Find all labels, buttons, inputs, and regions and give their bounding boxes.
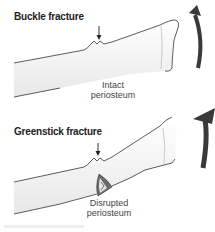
bend-arrow-icon <box>189 5 201 68</box>
greenstick-fracture-title: Greenstick fracture <box>14 126 102 137</box>
bend-arrow-icon-2 <box>193 108 215 168</box>
buckle-fracture-title: Buckle fracture <box>14 11 84 22</box>
label-line: periosteum <box>79 208 139 218</box>
disrupted-periosteum-label: Disrupted periosteum <box>79 198 139 218</box>
greenstick-arrow-down <box>96 143 101 156</box>
label-line: Disrupted <box>79 198 139 208</box>
buckle-arrow-down <box>97 26 102 40</box>
faint-caption <box>4 225 84 228</box>
intact-periosteum-label: Intact periosteum <box>83 80 143 100</box>
label-line: Intact <box>83 80 143 90</box>
label-line: periosteum <box>83 90 143 100</box>
